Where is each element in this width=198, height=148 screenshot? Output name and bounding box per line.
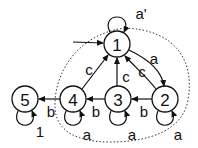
edge-5-5 [17, 111, 34, 125]
node-label-3: 3 [113, 91, 122, 110]
node-3: 3 [105, 86, 131, 112]
edge-label-4-1: c [85, 61, 93, 78]
state-diagram: a' a c c c b b b a a a 1 1 2 3 4 [0, 0, 198, 148]
edge-label-3-4: b [92, 103, 100, 120]
edge-label-3-3: a [128, 126, 137, 143]
node-5: 5 [12, 86, 38, 112]
node-1: 1 [104, 31, 130, 57]
edge-label-2-1: c [138, 63, 146, 80]
edge-label-1-1: a' [135, 5, 146, 22]
edge-label-1-2: a [150, 50, 159, 67]
node-label-1: 1 [112, 36, 121, 55]
edge-label-4-4: a [83, 126, 92, 143]
edge-label-4-5: b [47, 103, 55, 120]
edge-label-5-5: 1 [36, 123, 44, 140]
edge-label-2-3: b [140, 103, 148, 120]
node-2: 2 [152, 86, 178, 112]
start-arrow [73, 42, 103, 43]
edge-label-3-1: c [122, 68, 130, 85]
node-label-5: 5 [20, 91, 29, 110]
edge-1-2 [129, 50, 164, 86]
node-label-2: 2 [160, 91, 169, 110]
edge-label-2-2: a [174, 126, 183, 143]
node-4: 4 [60, 86, 86, 112]
edge-2-2 [157, 111, 174, 125]
node-label-4: 4 [68, 91, 77, 110]
edge-4-4 [65, 111, 82, 125]
edge-3-3 [110, 111, 127, 125]
